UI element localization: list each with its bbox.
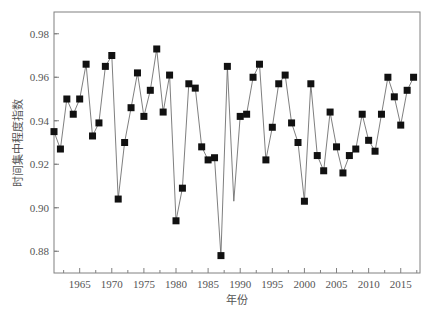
- data-point: [333, 143, 340, 150]
- data-point: [237, 113, 244, 120]
- y-axis-title: 时间集中程度指数: [11, 99, 25, 187]
- data-point: [275, 80, 282, 87]
- data-point: [102, 63, 109, 70]
- data-point: [404, 87, 411, 94]
- data-point: [256, 61, 263, 68]
- data-point: [224, 63, 231, 70]
- data-point: [153, 45, 160, 52]
- data-point: [51, 128, 58, 135]
- data-point: [301, 198, 308, 205]
- data-point: [384, 74, 391, 81]
- x-axis-title: 年份: [226, 293, 248, 307]
- plot-border: [54, 12, 420, 273]
- data-point: [89, 132, 96, 139]
- y-axis: 0.880.900.920.940.960.98: [30, 28, 59, 258]
- data-point: [192, 85, 199, 92]
- data-point: [282, 72, 289, 79]
- data-point: [63, 96, 70, 103]
- data-point: [359, 111, 366, 118]
- chart: 0.880.900.920.940.960.98 196519701975198…: [0, 0, 429, 316]
- data-point: [95, 119, 102, 126]
- x-tick-label: 1975: [133, 278, 156, 290]
- data-point: [179, 185, 186, 192]
- x-axis: 1965197019751980198519901995200020052010…: [64, 268, 417, 290]
- data-point: [320, 167, 327, 174]
- data-point: [147, 87, 154, 94]
- data-point: [166, 72, 173, 79]
- data-point: [121, 139, 128, 146]
- data-point: [397, 122, 404, 129]
- y-tick-label: 0.88: [30, 245, 50, 257]
- x-tick-label: 2000: [293, 278, 316, 290]
- x-tick-label: 1965: [69, 278, 92, 290]
- data-point: [327, 109, 334, 116]
- data-point: [372, 148, 379, 155]
- x-tick-label: 1970: [101, 278, 124, 290]
- series-line: [54, 49, 414, 256]
- data-point: [160, 109, 167, 116]
- data-point: [83, 61, 90, 68]
- data-point: [339, 169, 346, 176]
- data-point: [115, 196, 122, 203]
- data-point: [410, 74, 417, 81]
- y-tick-label: 0.94: [30, 115, 50, 127]
- x-tick-label: 2015: [390, 278, 413, 290]
- x-tick-label: 2005: [326, 278, 349, 290]
- data-point: [173, 217, 180, 224]
- data-point: [185, 80, 192, 87]
- data-point: [134, 69, 141, 76]
- data-point: [378, 111, 385, 118]
- data-point: [140, 113, 147, 120]
- data-point: [269, 124, 276, 131]
- data-point: [128, 104, 135, 111]
- data-line: [54, 49, 414, 256]
- data-point: [57, 146, 64, 153]
- data-point: [250, 74, 257, 81]
- y-tick-label: 0.90: [30, 202, 50, 214]
- data-point: [108, 52, 115, 59]
- x-tick-label: 1990: [229, 278, 252, 290]
- data-point: [352, 146, 359, 153]
- data-point: [243, 111, 250, 118]
- data-point: [391, 93, 398, 100]
- data-point: [314, 152, 321, 159]
- plot-frame: [54, 12, 420, 273]
- series-markers: [51, 45, 418, 259]
- x-tick-label: 1980: [165, 278, 188, 290]
- data-point: [198, 143, 205, 150]
- y-tick-label: 0.98: [30, 28, 50, 40]
- x-tick-label: 2010: [358, 278, 381, 290]
- x-tick-label: 1995: [261, 278, 284, 290]
- y-tick-label: 0.92: [30, 158, 49, 170]
- x-tick-label: 1985: [197, 278, 220, 290]
- data-point: [70, 111, 77, 118]
- data-point: [262, 156, 269, 163]
- data-point: [346, 152, 353, 159]
- y-tick-label: 0.96: [30, 71, 50, 83]
- data-point: [365, 137, 372, 144]
- data-point: [307, 80, 314, 87]
- data-point: [295, 139, 302, 146]
- data-point: [205, 156, 212, 163]
- data-point: [288, 119, 295, 126]
- data-point: [76, 96, 83, 103]
- data-point: [217, 252, 224, 259]
- data-point: [211, 154, 218, 161]
